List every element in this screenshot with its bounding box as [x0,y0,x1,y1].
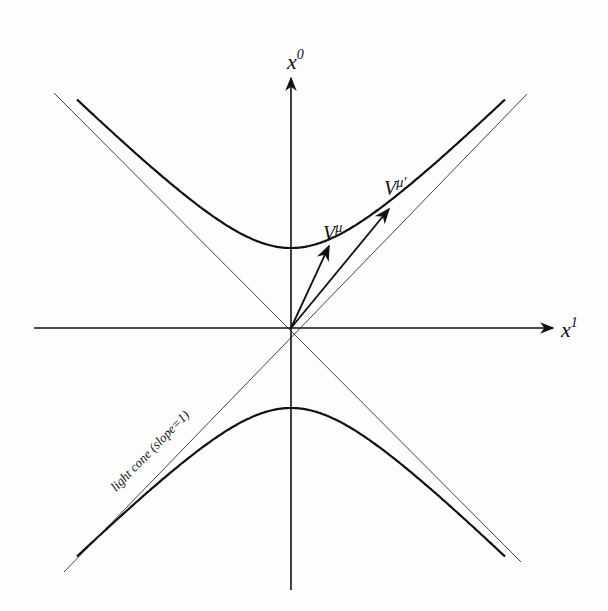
vector-v-mu-label: Vμ [323,220,342,244]
vector-v-mu-prime-label: Vμ' [384,175,407,199]
light-cone-label: light cone (slope=1) [107,407,192,494]
diagram-svg: x0 x1 Vμ Vμ' light cone (slope=1) [0,0,608,611]
vector-v-mu [291,246,329,328]
x0-axis-label: x0 [286,47,304,74]
light-cone-line-positive [64,94,527,572]
spacetime-diagram: x0 x1 Vμ Vμ' light cone (slope=1) [0,0,608,611]
x1-axis-label: x1 [560,315,578,342]
